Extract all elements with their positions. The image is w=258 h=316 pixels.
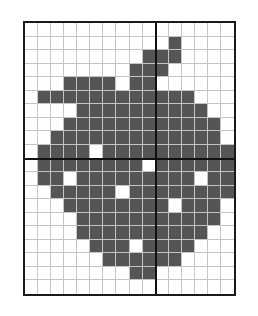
empty-cell: [38, 253, 51, 267]
filled-cell: [77, 199, 90, 213]
empty-cell: [25, 64, 38, 78]
filled-cell: [116, 253, 129, 267]
empty-cell: [77, 240, 90, 254]
filled-cell: [90, 172, 103, 186]
filled-cell: [195, 199, 208, 213]
filled-cell: [169, 145, 182, 159]
filled-cell: [90, 104, 103, 118]
empty-cell: [51, 64, 64, 78]
empty-cell: [103, 50, 116, 64]
empty-cell: [51, 37, 64, 51]
filled-cell: [156, 253, 169, 267]
empty-cell: [221, 50, 234, 64]
filled-cell: [156, 226, 169, 240]
empty-cell: [208, 64, 221, 78]
filled-cell: [130, 199, 143, 213]
empty-cell: [25, 104, 38, 118]
filled-cell: [116, 145, 129, 159]
filled-cell: [130, 91, 143, 105]
empty-cell: [64, 172, 77, 186]
empty-cell: [208, 50, 221, 64]
empty-cell: [64, 23, 77, 37]
filled-cell: [77, 226, 90, 240]
empty-cell: [221, 23, 234, 37]
filled-cell: [103, 159, 116, 173]
filled-cell: [208, 186, 221, 200]
filled-cell: [130, 226, 143, 240]
empty-cell: [221, 91, 234, 105]
empty-cell: [195, 280, 208, 294]
filled-cell: [64, 159, 77, 173]
filled-cell: [130, 77, 143, 91]
filled-cell: [77, 104, 90, 118]
empty-cell: [51, 104, 64, 118]
filled-cell: [221, 159, 234, 173]
empty-cell: [116, 280, 129, 294]
filled-cell: [156, 104, 169, 118]
empty-cell: [38, 240, 51, 254]
empty-cell: [25, 240, 38, 254]
filled-cell: [156, 240, 169, 254]
empty-cell: [64, 37, 77, 51]
filled-cell: [169, 186, 182, 200]
empty-cell: [182, 280, 195, 294]
empty-cell: [38, 267, 51, 281]
filled-cell: [116, 118, 129, 132]
empty-cell: [221, 199, 234, 213]
empty-cell: [195, 23, 208, 37]
filled-cell: [169, 131, 182, 145]
filled-cell: [208, 199, 221, 213]
empty-cell: [208, 77, 221, 91]
filled-cell: [64, 145, 77, 159]
filled-cell: [116, 226, 129, 240]
empty-cell: [38, 186, 51, 200]
empty-cell: [77, 23, 90, 37]
empty-cell: [130, 37, 143, 51]
filled-cell: [103, 240, 116, 254]
filled-cell: [51, 91, 64, 105]
empty-cell: [169, 77, 182, 91]
filled-cell: [182, 118, 195, 132]
filled-cell: [130, 267, 143, 281]
filled-cell: [130, 213, 143, 227]
empty-cell: [103, 23, 116, 37]
empty-cell: [38, 199, 51, 213]
filled-cell: [103, 186, 116, 200]
empty-cell: [77, 253, 90, 267]
filled-cell: [77, 131, 90, 145]
empty-cell: [38, 213, 51, 227]
empty-cell: [25, 145, 38, 159]
empty-cell: [25, 213, 38, 227]
empty-cell: [208, 23, 221, 37]
empty-cell: [195, 267, 208, 281]
empty-cell: [195, 253, 208, 267]
filled-cell: [77, 172, 90, 186]
empty-cell: [182, 64, 195, 78]
filled-cell: [169, 37, 182, 51]
empty-cell: [51, 118, 64, 132]
filled-cell: [103, 91, 116, 105]
empty-cell: [208, 267, 221, 281]
empty-cell: [90, 145, 103, 159]
filled-cell: [156, 199, 169, 213]
filled-cell: [195, 159, 208, 173]
filled-cell: [156, 159, 169, 173]
filled-cell: [182, 199, 195, 213]
filled-cell: [90, 159, 103, 173]
empty-cell: [64, 226, 77, 240]
empty-cell: [103, 37, 116, 51]
empty-cell: [25, 77, 38, 91]
empty-cell: [195, 240, 208, 254]
filled-cell: [208, 213, 221, 227]
filled-cell: [90, 226, 103, 240]
empty-cell: [221, 213, 234, 227]
filled-cell: [116, 159, 129, 173]
empty-cell: [64, 267, 77, 281]
empty-cell: [90, 37, 103, 51]
filled-cell: [169, 159, 182, 173]
empty-cell: [64, 50, 77, 64]
filled-cell: [182, 131, 195, 145]
filled-cell: [156, 50, 169, 64]
empty-cell: [38, 118, 51, 132]
filled-cell: [182, 213, 195, 227]
